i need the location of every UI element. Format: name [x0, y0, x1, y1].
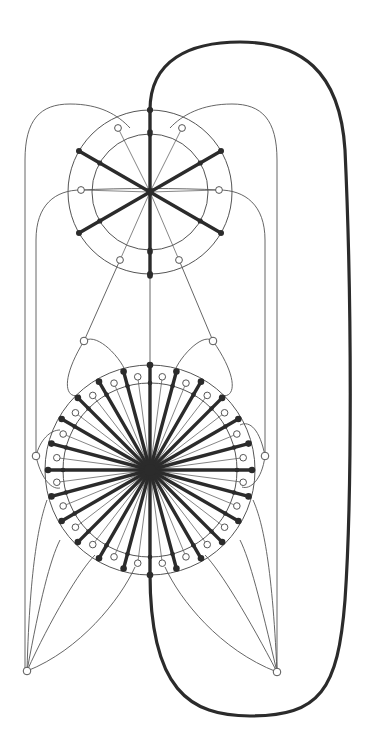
black-node [218, 230, 224, 236]
thin-edge [240, 540, 277, 672]
white-node [78, 187, 85, 194]
black-node [209, 406, 214, 411]
thin-edge [240, 424, 265, 456]
graph-nodes [23, 107, 281, 676]
black-node [86, 529, 91, 534]
black-node [120, 368, 127, 375]
black-node [249, 467, 256, 474]
white-node [221, 524, 228, 531]
thin-edge [84, 260, 120, 341]
black-node [232, 490, 237, 495]
white-node [240, 479, 247, 486]
white-node [240, 454, 247, 461]
white-node [89, 541, 96, 548]
white-node [23, 667, 31, 675]
black-node [170, 384, 175, 389]
black-node [48, 440, 55, 447]
black-node [235, 416, 242, 423]
black-node [72, 424, 77, 429]
black-node [104, 392, 109, 397]
white-node [89, 392, 96, 399]
white-node [134, 374, 141, 381]
black-node [147, 107, 153, 113]
thin-edge [27, 540, 60, 671]
black-node [75, 395, 82, 402]
white-node [179, 125, 186, 132]
thin-edge [27, 555, 95, 671]
black-node [58, 416, 65, 423]
white-node [216, 187, 223, 194]
black-node [76, 230, 82, 236]
black-node [198, 378, 205, 385]
black-node [125, 552, 130, 557]
black-node [148, 381, 153, 386]
black-node [64, 490, 69, 495]
white-node [117, 257, 124, 264]
black-node [191, 392, 196, 397]
black-node [125, 384, 130, 389]
thin-edge [170, 104, 277, 672]
black-node [198, 160, 203, 165]
black-node [223, 424, 228, 429]
white-node [234, 503, 241, 510]
white-node [159, 560, 166, 567]
black-node [147, 273, 153, 279]
black-node [61, 468, 66, 473]
white-node [54, 479, 61, 486]
white-node [115, 125, 122, 132]
white-node [204, 541, 211, 548]
white-node [183, 380, 190, 387]
black-node [219, 539, 226, 546]
black-node [72, 511, 77, 516]
black-node [148, 555, 153, 560]
black-node [97, 160, 102, 165]
black-node [58, 518, 65, 525]
black-node [209, 529, 214, 534]
black-node [147, 129, 153, 135]
white-node [54, 454, 61, 461]
black-node [232, 445, 237, 450]
black-node [75, 539, 82, 546]
black-node [191, 543, 196, 548]
thin-edge [213, 341, 232, 396]
black-node [245, 440, 252, 447]
graph-diagram [0, 0, 368, 756]
white-node [221, 409, 228, 416]
white-node [209, 337, 217, 345]
black-node [223, 511, 228, 516]
white-node [183, 554, 190, 561]
white-node [32, 452, 40, 460]
thin-edge [36, 430, 60, 456]
thin-edge [27, 567, 135, 671]
black-node [120, 565, 127, 572]
thick-loop-edge [150, 42, 350, 716]
black-node [235, 518, 242, 525]
black-node [198, 218, 203, 223]
thin-edge [179, 260, 213, 341]
white-node [60, 503, 67, 510]
white-node [234, 431, 241, 438]
white-node [159, 374, 166, 381]
black-node [97, 218, 102, 223]
thin-edge [253, 500, 277, 672]
thin-edge [205, 555, 277, 672]
thin-edge [150, 190, 219, 192]
upper-spoke [79, 192, 150, 233]
black-node [219, 395, 226, 402]
white-node [60, 431, 67, 438]
white-node [72, 524, 79, 531]
white-node [261, 452, 269, 460]
black-node [104, 543, 109, 548]
thin-edge [81, 190, 150, 192]
black-node [45, 467, 52, 474]
black-node [147, 249, 153, 255]
white-node [111, 554, 118, 561]
white-node [134, 560, 141, 567]
black-node [64, 445, 69, 450]
black-node [218, 148, 224, 154]
lower-hub-node [144, 464, 156, 476]
black-node [235, 468, 240, 473]
white-node [176, 257, 183, 264]
thin-edge [27, 500, 47, 671]
black-node [170, 552, 175, 557]
